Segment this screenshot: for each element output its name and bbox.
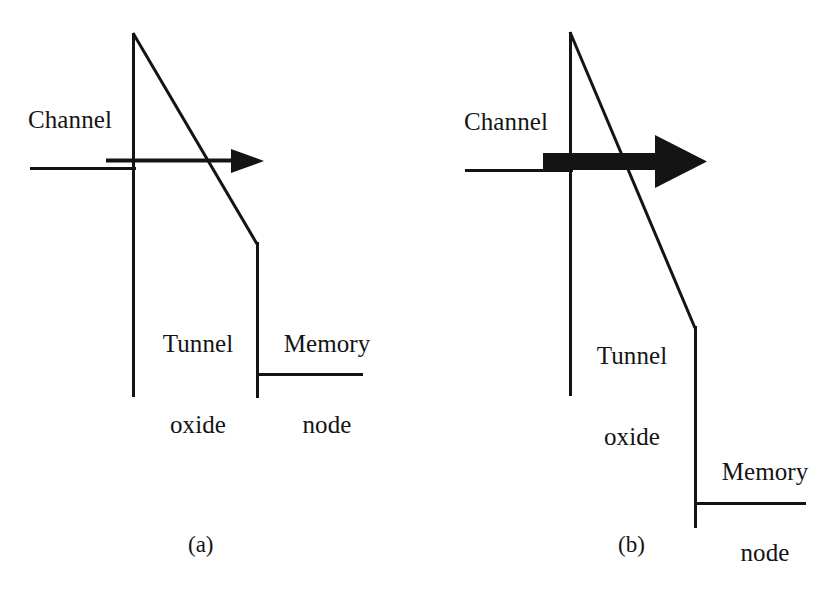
panel-b-tunnelling-arrow-head	[655, 135, 707, 188]
figure-root: Channel Tunnel oxide Memory node (a) Cha…	[0, 0, 826, 595]
panel-a-memory-node-label: Memory node	[268, 276, 386, 492]
panel-b-tunnelling-arrow-shaft	[543, 153, 659, 170]
panel-a-memory-node-label-line1: Memory	[268, 330, 386, 357]
panel-a-memory-node-label-line2: node	[268, 411, 386, 438]
figure-drawing	[0, 0, 826, 595]
panel-b-memory-node-label-line1: Memory	[706, 458, 824, 485]
panel-a-channel-label: Channel	[28, 106, 112, 133]
panel-b-memory-node-label-line2: node	[706, 539, 824, 566]
panel-a-tunnel-oxide-label-line1: Tunnel	[144, 330, 252, 357]
panel-a-tunnel-oxide-label: Tunnel oxide	[144, 276, 252, 492]
panel-a-tunnelling-arrow-head	[231, 149, 264, 173]
panel-b-oxide-band-slope	[570, 32, 695, 328]
panel-b-channel-label: Channel	[464, 108, 548, 135]
panel-b-tunnel-oxide-label-line2: oxide	[578, 423, 686, 450]
panel-b-caption: (b)	[618, 532, 645, 558]
panel-b-memory-node-label: Memory node	[706, 404, 824, 595]
panel-a-oxide-band-slope	[133, 33, 257, 244]
panel-a-tunnel-oxide-label-line2: oxide	[144, 411, 252, 438]
panel-a-caption: (a)	[188, 532, 214, 558]
panel-b-tunnel-oxide-label-line1: Tunnel	[578, 342, 686, 369]
panel-b-tunnel-oxide-label: Tunnel oxide	[578, 288, 686, 504]
